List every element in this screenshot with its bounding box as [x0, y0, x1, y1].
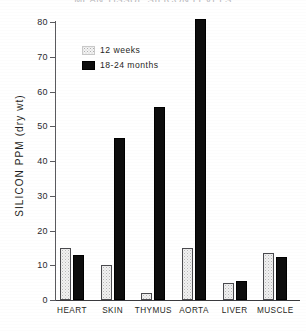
- bar: [73, 255, 84, 300]
- legend-item-12-weeks: 12 weeks: [82, 44, 159, 56]
- y-tick-label: 20: [37, 226, 48, 236]
- bar-group: [182, 22, 206, 300]
- x-tick-label: MUSCLE: [257, 306, 294, 315]
- x-axis-line: [55, 300, 300, 301]
- bar: [236, 281, 247, 300]
- legend-item-18-24-months: 18-24 months: [82, 59, 159, 71]
- bar: [101, 265, 112, 300]
- bar: [182, 248, 193, 300]
- y-axis-ticks: 01020304050607080: [0, 0, 56, 331]
- chart-legend: 12 weeks 18-24 months: [82, 44, 159, 74]
- x-tick-label: AORTA: [179, 306, 209, 315]
- bar: [263, 253, 274, 300]
- x-tick-label: THYMUS: [135, 306, 172, 315]
- y-tick-label: 50: [37, 121, 48, 131]
- bar: [276, 257, 287, 300]
- y-tick-label: 30: [37, 191, 48, 201]
- y-tick-label: 10: [37, 260, 48, 270]
- chart-figure: MEAN TISSUE SILICON LEVELS 0102030405060…: [0, 0, 306, 331]
- legend-swatch-dark-icon: [82, 61, 95, 70]
- bar: [114, 138, 125, 300]
- legend-swatch-light-icon: [82, 46, 95, 55]
- x-tick-label: LIVER: [222, 306, 248, 315]
- legend-label: 12 weeks: [100, 45, 140, 55]
- y-tick-label: 70: [37, 52, 48, 62]
- y-tick-label: 40: [37, 156, 48, 166]
- legend-label: 18-24 months: [100, 60, 159, 70]
- y-tick-mark: [50, 300, 56, 301]
- bar-group: [223, 22, 247, 300]
- bar-group: [60, 22, 84, 300]
- y-tick-label: 80: [37, 17, 48, 27]
- bar: [154, 107, 165, 300]
- x-tick-label: SKIN: [102, 306, 123, 315]
- y-axis-title: SILICON PPM (dry wt): [14, 41, 25, 271]
- x-tick-label: HEART: [57, 306, 87, 315]
- bar-group: [263, 22, 287, 300]
- y-tick-label: 0: [43, 295, 48, 305]
- y-tick-label: 60: [37, 87, 48, 97]
- bar: [223, 283, 234, 300]
- bar: [141, 293, 152, 300]
- bar: [60, 248, 71, 300]
- bar: [195, 19, 206, 300]
